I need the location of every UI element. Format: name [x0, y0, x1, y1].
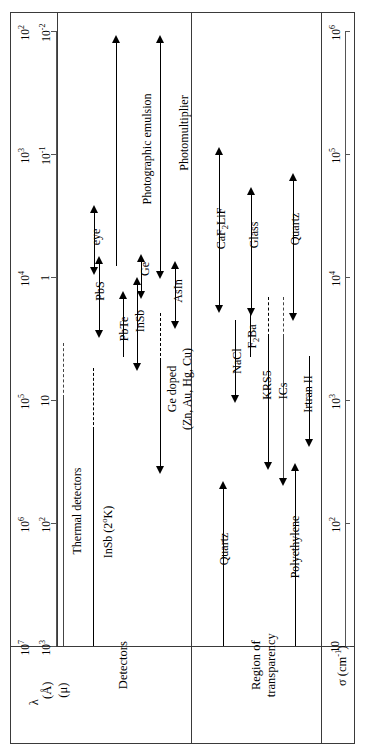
irtran-ii-label: Irtran II: [302, 354, 314, 434]
photographic-emulsion-label: Photographic emulsion: [141, 51, 153, 247]
left-micron-label-0: 10-2: [39, 11, 52, 55]
right-tick-label-2: 104: [329, 257, 342, 301]
photographic-emulsion-arrow-head-top: [112, 35, 120, 43]
right-tick-label-4: 102: [329, 503, 342, 547]
photomultiplier-arrow-head-top: [156, 35, 164, 43]
insb-2k-label: InSb (2oK): [100, 457, 114, 607]
quartz-lower-arrow-head-top: [219, 481, 227, 489]
right-tick-3: [345, 400, 350, 401]
caption-detectors: Detectors: [116, 620, 130, 710]
photomultiplier-bar: [160, 43, 161, 271]
pbte-label: PbTe: [118, 294, 130, 364]
caf2lif-arrow-head-bottom: [215, 305, 223, 313]
right-tick-label-0: 106: [329, 11, 342, 55]
left-micron-label-4: 102: [39, 503, 52, 547]
thermal-detectors-bar: [63, 398, 64, 646]
krs5-label: KRS5: [261, 345, 273, 425]
thermal-detectors-label: Thermal detectors: [71, 436, 83, 586]
left-micron-label-3: 10: [40, 379, 52, 423]
ics-label: ICs: [277, 353, 289, 429]
right-tick-4: [345, 523, 350, 524]
photomultiplier-label: Photomultiplier: [178, 48, 190, 218]
caption-scale-right: σ (cm-1): [334, 621, 350, 711]
left-angstrom-label-0: 102: [18, 11, 31, 55]
ge-doped-arrow-head-bottom: [156, 466, 164, 474]
pbs-label: PbS: [94, 256, 106, 326]
insb-2k-bar: [93, 430, 94, 646]
right-axis-line: [345, 31, 346, 646]
polyethylene-label: Polyethylene: [289, 477, 301, 617]
caption-scale-left-micron: (μ): [56, 645, 70, 735]
caf2lif-label: CaF2LiF: [215, 173, 230, 283]
right-tick-0: [345, 31, 350, 32]
photographic-emulsion-bar: [116, 43, 117, 266]
ics-arrow-head-bottom: [279, 478, 287, 486]
divider-scale-right: [321, 13, 322, 743]
left-tick-2: [51, 277, 56, 278]
left-tick-3: [51, 400, 56, 401]
figure-canvas: 10-2 10-1 1 10 102 103 102 103 104 105 1…: [0, 0, 367, 756]
glass-label: Glass: [248, 185, 260, 285]
insb-2k-bar-dashed: [93, 368, 94, 430]
ge-doped-bar: [160, 361, 161, 466]
nacl-label: NaCl: [231, 321, 243, 401]
photomultiplier-arrow-head-bottom: [156, 271, 164, 279]
quartz-lower-label: Quartz: [218, 499, 230, 599]
insb-arrow-head-bottom: [133, 363, 141, 371]
quartz-upper-label: Quartz: [289, 179, 301, 279]
caption-scale-left-angstrom: (Å): [40, 645, 54, 735]
ge-doped-label: Ge doped: [166, 314, 178, 464]
ics-bar-dashed: [283, 297, 284, 337]
thermal-detectors-bar-dashed: [63, 343, 64, 398]
left-micron-label-1: 10-1: [39, 134, 52, 178]
pbs-arrow-head-bottom: [95, 330, 103, 338]
f2ba-label: F2Ba: [246, 296, 261, 376]
quartz-upper-arrow-head-bottom: [289, 313, 297, 321]
figure-frame: 10-2 10-1 1 10 102 103 102 103 104 105 1…: [10, 12, 355, 744]
right-tick-1: [345, 154, 350, 155]
irtran-ii-arrow-head-bottom: [305, 439, 313, 447]
right-tick-label-3: 103: [329, 380, 342, 424]
right-tick-label-1: 105: [329, 134, 342, 178]
left-angstrom-label-4: 106: [18, 503, 31, 547]
left-axis-line: [56, 31, 57, 646]
caption-transparency-line2: transparency: [264, 620, 278, 710]
caf2lif-arrow-head-top: [215, 147, 223, 155]
ge-doped-sublabel: (Zn, Au, Hg, Cu): [181, 314, 193, 464]
krs5-bar-dashed: [268, 297, 269, 337]
left-angstrom-label-2: 104: [18, 257, 31, 301]
caption-transparency-line1: Region of: [249, 620, 263, 710]
left-angstrom-label-1: 103: [18, 134, 31, 178]
divider-scale-left: [57, 13, 58, 646]
ge-doped-bar-dashed: [160, 313, 161, 361]
right-tick-2: [345, 277, 350, 278]
left-micron-label-2: 1: [40, 256, 52, 300]
polyethylene-arrow-head-top: [291, 463, 299, 471]
krs5-arrow-head-bottom: [264, 462, 272, 470]
ge-label: Ge: [139, 239, 151, 299]
left-angstrom-label-3: 105: [18, 380, 31, 424]
